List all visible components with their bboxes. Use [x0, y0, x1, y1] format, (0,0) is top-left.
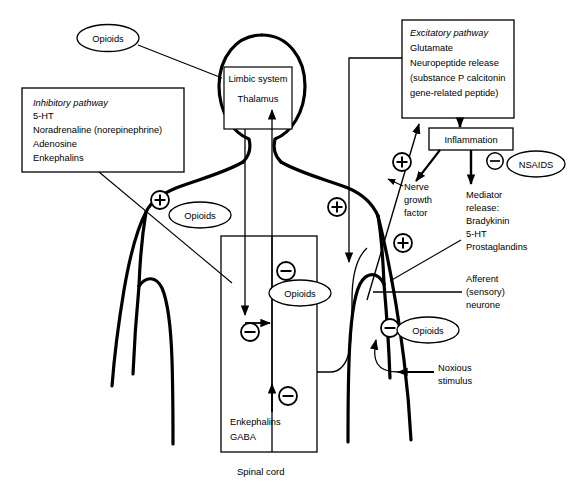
opioids-cord-ellipse: Opioids: [269, 280, 331, 306]
opioids-top-leader: [138, 45, 222, 78]
afferent-line-0: Afferent: [466, 274, 499, 284]
mediator-line-2: Bradykinin: [466, 216, 509, 226]
brain-box: Limbic system Thalamus: [224, 67, 292, 129]
noxious-stimulus-annotation: Noxious stimulus: [438, 363, 472, 386]
inhibitory-pathway-box: Inhibitory pathway 5-HT Noradrenaline (n…: [22, 88, 184, 172]
minus-sign-cord: [277, 262, 295, 280]
opioids-shoulder-ellipse: Opioids: [169, 202, 231, 228]
minus-sign-descending: [241, 323, 259, 341]
ngf-leader-arrow: [388, 179, 403, 186]
inhibitory-line-2: Noradrenaline (norepinephrine): [33, 125, 162, 135]
mediator-release-annotation: Mediator release: Bradykinin 5-HT Prosta…: [466, 190, 528, 252]
mediator-line-1: release:: [466, 203, 499, 213]
plus-sign-right-shoulder: [328, 198, 346, 216]
limbic-system-label: Limbic system: [229, 74, 288, 84]
plus-sign-mediator: [394, 234, 412, 252]
excitatory-title: Excitatory pathway: [410, 28, 489, 38]
inflammation-to-ngf-arrow: [416, 150, 440, 181]
noxious-line-1: stimulus: [438, 376, 472, 386]
minus-sign-afferent: [381, 319, 399, 337]
mediator-line-3: 5-HT: [466, 229, 487, 239]
opioids-top-label: Opioids: [92, 34, 124, 44]
afferent-line-2: neurone: [466, 300, 500, 310]
excitatory-line-3: (substance P calcitonin: [410, 73, 505, 83]
spinal-line-1: GABA: [230, 432, 257, 442]
ngf-line-2: factor: [404, 208, 427, 218]
nerve-growth-factor-annotation: Nerve growth factor: [404, 182, 432, 218]
inhibitory-line-1: 5-HT: [33, 111, 54, 121]
excitatory-line-1: Glutamate: [410, 43, 453, 53]
plus-sign-ngf: [393, 153, 411, 171]
excitatory-line-2: Neuropeptide release: [410, 58, 499, 68]
spinal-cord-caption: Spinal cord: [237, 466, 285, 477]
afferent-neurone-annotation: Afferent (sensory) neurone: [466, 274, 505, 310]
opioids-cord-label: Opioids: [284, 289, 316, 299]
ngf-line-1: growth: [404, 195, 432, 205]
nsaids-minus-sign: [487, 153, 503, 169]
plus-sign-left-shoulder: [151, 191, 169, 209]
afferent-line-1: (sensory): [466, 287, 505, 297]
mediator-line-0: Mediator: [466, 190, 502, 200]
thalamus-label: Thalamus: [238, 94, 279, 104]
nsaids-label: NSAIDS: [519, 160, 554, 170]
afferent-entry-hook: [317, 248, 367, 372]
excitatory-pathway-box: Excitatory pathway Glutamate Neuropeptid…: [402, 20, 514, 118]
spinal-line-0: Enkephalins: [230, 417, 281, 427]
pain-pathway-diagram: Inhibitory pathway 5-HT Noradrenaline (n…: [0, 0, 576, 501]
opioids-shoulder-label: Opioids: [184, 211, 216, 221]
noxious-line-0: Noxious: [438, 363, 472, 373]
inflammation-box: Inflammation: [429, 128, 513, 150]
inhibitory-line-4: Enkephalins: [33, 153, 84, 163]
excitatory-line-4: gene-related peptide): [410, 88, 498, 98]
nsaids-ellipse: NSAIDS: [507, 151, 565, 177]
spinal-cord-box: Enkephalins GABA: [221, 236, 317, 452]
inflammation-label: Inflammation: [444, 135, 497, 145]
minus-sign-gaba: [279, 387, 297, 405]
inhibitory-title: Inhibitory pathway: [33, 98, 109, 108]
inhibitory-line-3: Adenosine: [33, 139, 77, 149]
diagram-canvas: Inhibitory pathway 5-HT Noradrenaline (n…: [0, 0, 576, 501]
opioids-afferent-ellipse: Opioids: [397, 317, 459, 343]
ngf-line-0: Nerve: [404, 182, 429, 192]
mediator-line-4: Prostaglandins: [466, 242, 528, 252]
opioids-afferent-label: Opioids: [412, 326, 444, 336]
opioids-top-ellipse: Opioids: [77, 25, 139, 52]
noxious-hook-path: [375, 340, 398, 372]
